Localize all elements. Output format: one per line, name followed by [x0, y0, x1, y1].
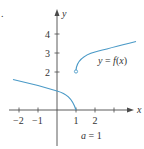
left-branch-curve [13, 80, 76, 111]
y-axis-arrow-icon [55, 9, 60, 16]
y-tick-label-2: 2 [45, 67, 50, 78]
x-axis-arrow-icon [127, 108, 134, 113]
item-marker: . [1, 8, 4, 19]
function-graph: . x y −2 −1 1 2 4 3 2 y = f(x) a = 1 [0, 0, 144, 149]
open-circle-marker [74, 70, 77, 73]
y-tick-label-3: 3 [45, 48, 50, 59]
y-tick-label-4: 4 [45, 29, 50, 40]
x-tick-label-neg1: −1 [32, 115, 43, 126]
x-tick-label-2: 2 [93, 115, 98, 126]
x-axis-label: x [136, 104, 142, 115]
function-label: y = f(x) [97, 55, 127, 67]
x-tick-label-neg2: −2 [13, 115, 24, 126]
a-value-label: a = 1 [81, 130, 102, 141]
y-axis-label: y [61, 8, 67, 19]
x-tick-label-1: 1 [74, 115, 79, 126]
